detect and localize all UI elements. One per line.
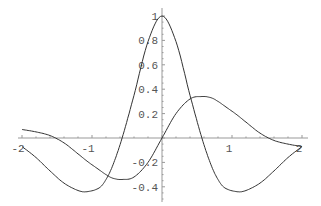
- x-tick-label: -2: [11, 143, 24, 155]
- x-tick-labels: -2-112: [11, 143, 302, 155]
- y-tick-label: -0.2: [132, 157, 158, 169]
- x-tick-label: -1: [81, 143, 95, 155]
- x-tick-label: 1: [226, 143, 233, 155]
- y-tick-label: 0.2: [138, 109, 158, 121]
- y-tick-label: 1: [151, 11, 158, 23]
- plot-area: -2-112 10.80.60.40.2-0.2-0.4: [0, 0, 321, 206]
- y-tick-label: -0.4: [132, 182, 159, 194]
- y-tick-label: 0.4: [138, 84, 158, 96]
